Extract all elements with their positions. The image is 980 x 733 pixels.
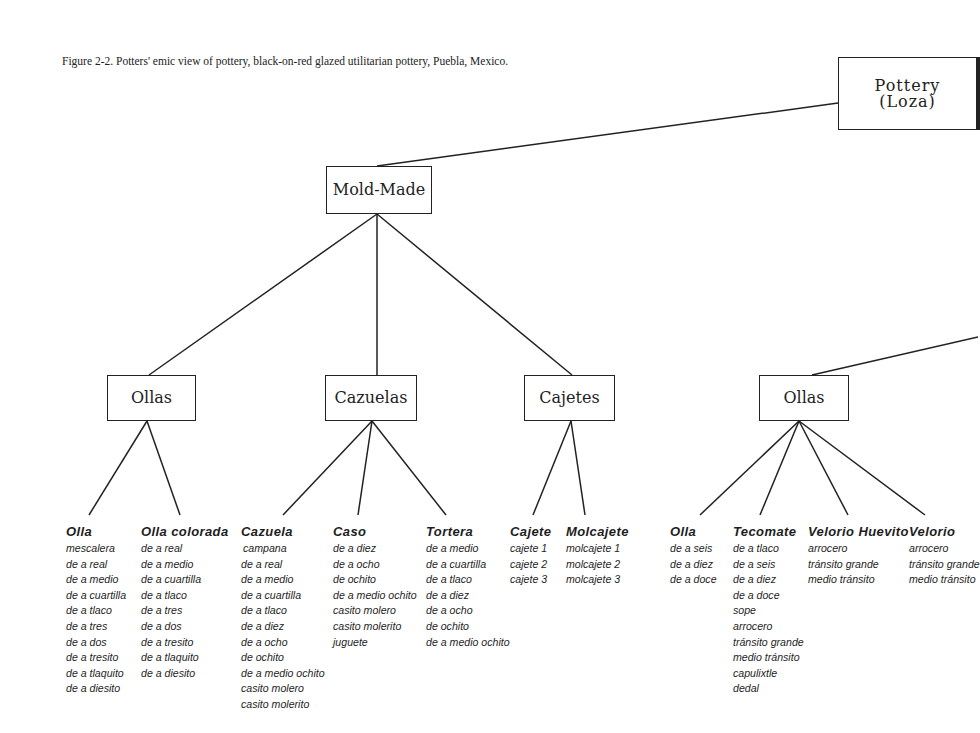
leaf-item: medio tránsito xyxy=(733,650,804,666)
leaf-item: de a real xyxy=(141,541,229,557)
leaf-tortera: Tortera de a medio de a cuartilla de a t… xyxy=(426,524,510,650)
leaf-cajete: Cajete cajete 1 cajete 2 cajete 3 xyxy=(510,524,551,588)
leaf-item: juguete xyxy=(333,635,417,651)
node-ollas-left-label: Ollas xyxy=(131,390,172,406)
leaf-item: de a dos xyxy=(141,619,229,635)
leaf-item: casito molero xyxy=(333,603,417,619)
leaf-item: de a ocho xyxy=(426,603,510,619)
leaf-item: de a seis xyxy=(733,557,804,573)
leaf-item: capulixtle xyxy=(733,666,804,682)
leaf-item: de a dos xyxy=(66,635,126,651)
leaf-item: de a medio xyxy=(241,572,325,588)
leaf-item: de a diesito xyxy=(141,666,229,682)
leaf-tecomate: Tecomate de a tlaco de a seis de a diez … xyxy=(733,524,804,697)
leaf-item: de a tresito xyxy=(141,635,229,651)
leaf-item: de a diez xyxy=(670,557,717,573)
node-cajetes: Cajetes xyxy=(524,375,615,421)
leaf-heading: Velorio Huevito xyxy=(808,524,909,539)
leaf-item: de a tlaquito xyxy=(66,666,126,682)
leaf-item: cajete 3 xyxy=(510,572,551,588)
leaf-cazuela: Cazuela campana de a real de a medio de … xyxy=(241,524,325,713)
node-ollas-right-label: Ollas xyxy=(783,390,824,406)
leaf-item: de a doce xyxy=(733,588,804,604)
leaf-item: casito molero xyxy=(241,681,325,697)
leaf-item: de a seis xyxy=(670,541,717,557)
leaf-item: de a diez xyxy=(426,588,510,604)
leaf-item: de a ocho xyxy=(241,635,325,651)
node-mold-made-label: Mold-Made xyxy=(333,182,425,198)
leaf-olla: Olla mescalera de a real de a medio de a… xyxy=(66,524,126,697)
leaf-item: dedal xyxy=(733,681,804,697)
leaf-item: arrocero xyxy=(733,619,804,635)
leaf-item: de a medio xyxy=(141,557,229,573)
node-cazuelas-label: Cazuelas xyxy=(335,390,408,406)
leaf-item: de a tresito xyxy=(66,650,126,666)
leaf-velorio-huevito: Velorio Huevito arrocero tránsito grande… xyxy=(808,524,909,588)
leaf-item: cajete 2 xyxy=(510,557,551,573)
leaf-item: de a medio ochito xyxy=(426,635,510,651)
leaf-item: tránsito grande xyxy=(909,557,980,573)
leaf-item: de ochito xyxy=(241,650,325,666)
node-pottery-sublabel: (Loza) xyxy=(879,94,936,110)
leaf-heading: Caso xyxy=(333,524,417,539)
leaf-item: sope xyxy=(733,603,804,619)
node-cajetes-label: Cajetes xyxy=(539,390,599,406)
leaf-item: arrocero xyxy=(909,541,980,557)
leaf-item: de a tres xyxy=(141,603,229,619)
node-cazuelas: Cazuelas xyxy=(325,375,417,421)
leaf-velorio: Velorio arrocero tránsito grande medio t… xyxy=(909,524,980,588)
node-ollas-left: Ollas xyxy=(107,375,196,421)
leaf-heading: Molcajete xyxy=(566,524,629,539)
leaf-item: de a tlaco xyxy=(241,603,325,619)
leaf-item: de a real xyxy=(66,557,126,573)
leaf-item: de a diesito xyxy=(66,681,126,697)
leaf-item: de a tres xyxy=(66,619,126,635)
leaf-item: de ochito xyxy=(333,572,417,588)
leaf-heading: Tortera xyxy=(426,524,510,539)
leaf-item: de a tlaco xyxy=(66,603,126,619)
leaf-item: de a ocho xyxy=(333,557,417,573)
leaf-heading: Cajete xyxy=(510,524,551,539)
leaf-item: molcajete 3 xyxy=(566,572,629,588)
leaf-item: molcajete 2 xyxy=(566,557,629,573)
leaf-molcajete: Molcajete molcajete 1 molcajete 2 molcaj… xyxy=(566,524,629,588)
leaf-item: de a tlaco xyxy=(733,541,804,557)
leaf-item: de a cuartilla xyxy=(241,588,325,604)
leaf-item: de a medio xyxy=(426,541,510,557)
leaf-heading: Olla colorada xyxy=(141,524,229,539)
leaf-item: tránsito grande xyxy=(733,635,804,651)
leaf-item: casito molerito xyxy=(333,619,417,635)
leaf-heading: Tecomate xyxy=(733,524,804,539)
leaf-heading: Velorio xyxy=(909,524,980,539)
leaf-item: de a medio xyxy=(66,572,126,588)
leaf-caso: Caso de a diez de a ocho de ochito de a … xyxy=(333,524,417,650)
node-mold-made: Mold-Made xyxy=(326,166,432,214)
leaf-item: de a cuartilla xyxy=(66,588,126,604)
leaf-item: de a diez xyxy=(733,572,804,588)
leaf-item: medio tránsito xyxy=(808,572,909,588)
leaf-item: de a medio ochito xyxy=(333,588,417,604)
leaf-item: de a cuartilla xyxy=(141,572,229,588)
leaf-item: de ochito xyxy=(426,619,510,635)
leaf-item: de a cuartilla xyxy=(426,557,510,573)
leaf-olla-colorada: Olla colorada de a real de a medio de a … xyxy=(141,524,229,681)
leaf-item: arrocero xyxy=(808,541,909,557)
leaf-item: tránsito grande xyxy=(808,557,909,573)
node-pottery: Pottery (Loza) xyxy=(838,57,980,130)
leaf-heading: Olla xyxy=(670,524,717,539)
leaf-item: medio tránsito xyxy=(909,572,980,588)
leaf-item: mescalera xyxy=(66,541,126,557)
leaf-item: de a doce xyxy=(670,572,717,588)
leaf-item: casito molerito xyxy=(241,697,325,713)
leaf-item: molcajete 1 xyxy=(566,541,629,557)
leaf-item: de a diez xyxy=(241,619,325,635)
leaf-heading: Cazuela xyxy=(241,524,325,539)
leaf-item: de a real xyxy=(241,557,325,573)
leaf-item: de a medio ochito xyxy=(241,666,325,682)
leaf-olla-right: Olla de a seis de a diez de a doce xyxy=(670,524,717,588)
leaf-item: campana xyxy=(241,541,325,557)
leaf-item: cajete 1 xyxy=(510,541,551,557)
leaf-item: de a tlaco xyxy=(426,572,510,588)
node-ollas-right: Ollas xyxy=(759,375,849,421)
leaf-heading: Olla xyxy=(66,524,126,539)
